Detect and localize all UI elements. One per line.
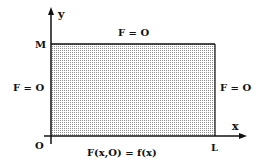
- boundary-value-diagram: y x O M L F = O F = O F = O F(x,O) = f(x…: [0, 0, 264, 165]
- point-m-label: M: [35, 39, 46, 50]
- bottom-boundary-condition: F(x,O) = f(x): [87, 147, 157, 159]
- top-boundary-condition: F = O: [118, 27, 149, 38]
- y-axis-arrow-icon: [48, 7, 54, 15]
- shaded-domain: [51, 44, 215, 136]
- x-axis-label: x: [232, 120, 239, 133]
- left-boundary-condition: F = O: [13, 82, 44, 93]
- right-boundary-condition: F = O: [220, 82, 251, 93]
- y-axis-label: y: [57, 8, 65, 21]
- x-axis-arrow-icon: [239, 133, 247, 139]
- origin-label: O: [35, 140, 44, 151]
- point-l-label: L: [211, 142, 218, 153]
